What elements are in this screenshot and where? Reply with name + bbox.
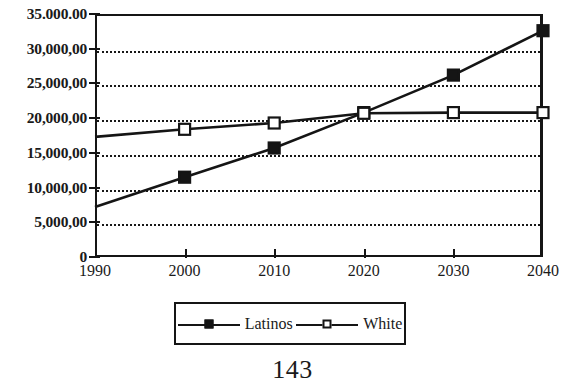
x-tick-label: 2000: [169, 262, 201, 280]
x-tick-label: 2020: [348, 262, 380, 280]
gridline: [97, 155, 540, 157]
gridline: [97, 51, 540, 53]
y-tick-label: 5,000,00: [34, 213, 87, 231]
legend-item-latinos: Latinos: [178, 315, 293, 333]
x-tick-label: 2030: [437, 262, 469, 280]
legend-item-white: White: [296, 315, 402, 333]
chart-legend: Latinos White: [174, 302, 406, 345]
gridline: [97, 85, 540, 87]
y-tick-label: 25,000,00: [27, 74, 87, 92]
x-tick-mark: [453, 249, 455, 258]
y-tick-label: 10,000,00: [27, 179, 87, 197]
x-tick-label: 2010: [258, 262, 290, 280]
page-number: 143: [0, 355, 585, 385]
legend-marker-white-icon: [296, 317, 358, 331]
y-axis: 05,000,0010,000,0015,000,0020,000,0025,0…: [0, 0, 95, 270]
y-tick-label: 35.000.00: [27, 5, 87, 23]
chart-figure: 05,000,0010,000,0015,000,0020,000,0025,0…: [0, 0, 585, 392]
x-tick-label: 1990: [79, 262, 111, 280]
x-tick-mark: [274, 249, 276, 258]
y-tick-label: 20,000,00: [27, 109, 87, 127]
x-tick-mark: [364, 249, 366, 258]
x-tick-label: 2040: [527, 262, 559, 280]
gridline: [97, 224, 540, 226]
gridline: [97, 190, 540, 192]
x-tick-mark: [185, 249, 187, 258]
legend-label-latinos: Latinos: [245, 315, 293, 333]
gridline: [97, 120, 540, 122]
y-tick-label: 15,000,00: [27, 144, 87, 162]
legend-label-white: White: [363, 315, 402, 333]
x-axis: 199020002010202020302040: [0, 262, 585, 290]
y-tick-label: 30,000,00: [27, 40, 87, 58]
plot-area: [95, 14, 543, 257]
legend-marker-latinos-icon: [178, 317, 240, 331]
